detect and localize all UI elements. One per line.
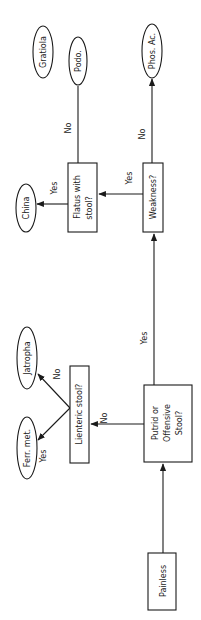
edge-lienteric-to-ferr-met bbox=[38, 408, 70, 440]
edge-label-flatus-no: No bbox=[64, 122, 73, 133]
flowchart-canvas: No Yes Yes No Yes No Yes No Gratiola Pod… bbox=[0, 0, 201, 620]
node-putrid-line2: Offensive bbox=[163, 404, 172, 442]
node-podo: Podo. bbox=[69, 37, 87, 85]
node-flatus: Flatus with stool? bbox=[68, 163, 97, 232]
edge-label-weakness-no: No bbox=[138, 128, 147, 139]
node-putrid-line3: Stool? bbox=[175, 411, 184, 435]
node-jatropha-label: Jatropha bbox=[23, 341, 32, 376]
node-ferr-met-label: Ferr. met. bbox=[23, 429, 32, 467]
edge-label-putrid-yes: Yes bbox=[140, 332, 149, 346]
node-putrid: Putrid or Offensive Stool? bbox=[144, 385, 192, 462]
node-painless: Painless bbox=[148, 553, 176, 610]
node-flatus-line1: Flatus with bbox=[73, 175, 82, 219]
node-gratiola: Gratiola bbox=[33, 26, 53, 78]
node-putrid-line1: Putrid or bbox=[151, 405, 160, 440]
node-painless-label: Painless bbox=[159, 565, 168, 597]
edge-label-putrid-no: No bbox=[100, 412, 109, 423]
edge-label-lienteric-yes: Yes bbox=[39, 450, 48, 464]
edge-label-weakness-yes: Yes bbox=[125, 172, 134, 186]
node-jatropha: Jatropha bbox=[17, 327, 37, 389]
node-podo-label: Podo. bbox=[74, 50, 83, 72]
node-lienteric-label: Lienteric stool? bbox=[75, 384, 84, 445]
node-weakness-label: Weakness? bbox=[149, 175, 158, 219]
node-china: China bbox=[16, 184, 36, 232]
edge-label-flatus-yes: Yes bbox=[50, 182, 59, 196]
node-weakness: Weakness? bbox=[143, 163, 163, 232]
node-phos-ac-label: Phos. Ac. bbox=[148, 33, 157, 69]
node-china-label: China bbox=[22, 196, 31, 219]
node-flatus-line2: stool? bbox=[85, 196, 94, 220]
edge-label-lienteric-no: No bbox=[53, 368, 62, 379]
node-gratiola-label: Gratiola bbox=[39, 36, 48, 68]
node-phos-ac: Phos. Ac. bbox=[142, 24, 162, 78]
node-ferr-met: Ferr. met. bbox=[17, 417, 37, 479]
node-lienteric: Lienteric stool? bbox=[70, 366, 89, 463]
